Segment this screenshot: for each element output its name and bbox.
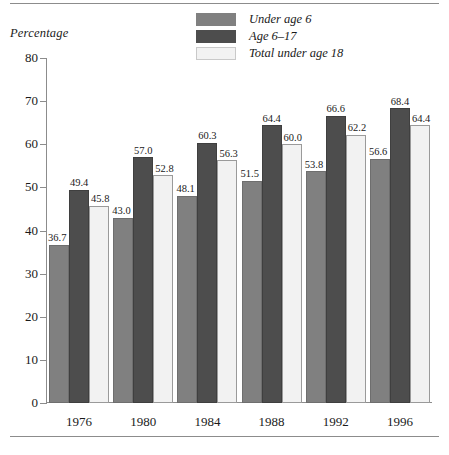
y-tick-label: 40 [25, 223, 38, 239]
bar[interactable]: 52.8 [153, 175, 173, 403]
bar-value-label: 49.4 [70, 178, 88, 189]
y-tick-label: 0 [32, 395, 39, 411]
bar[interactable]: 56.3 [217, 160, 237, 403]
bar-value-label: 52.8 [155, 164, 173, 175]
y-tick-label: 50 [25, 179, 38, 195]
bars: 53.866.662.2 [306, 58, 366, 403]
y-tick-label: 60 [25, 136, 38, 152]
bar[interactable]: 56.6 [370, 159, 390, 403]
figure-bottom-rule [10, 436, 439, 437]
y-tick-mark [40, 360, 47, 361]
x-tick-label: 1996 [387, 414, 413, 430]
bar-value-label: 43.0 [112, 206, 130, 217]
plot-area: 01020304050607080 36.749.445.8197643.057… [46, 58, 432, 403]
bar-value-label: 48.1 [176, 184, 194, 195]
x-tick-label: 1992 [323, 414, 349, 430]
bar-group-1976: 36.749.445.81976 [47, 58, 111, 403]
bar[interactable]: 60.0 [282, 144, 302, 403]
bar[interactable]: 57.0 [133, 157, 153, 403]
bar-value-label: 60.3 [198, 131, 216, 142]
y-tick-mark [40, 101, 47, 102]
bar-value-label: 57.0 [134, 146, 152, 157]
legend-label-under-age-6: Under age 6 [249, 13, 312, 26]
y-tick-label: 10 [25, 352, 38, 368]
y-tick-mark [40, 274, 47, 275]
bar-value-label: 62.2 [348, 123, 366, 134]
y-tick-mark [40, 144, 47, 145]
bar-value-label: 64.4 [262, 114, 280, 125]
bar-value-label: 68.4 [391, 97, 409, 108]
bars: 36.749.445.8 [49, 58, 109, 403]
bar[interactable]: 49.4 [69, 190, 89, 403]
bar[interactable]: 48.1 [177, 196, 197, 403]
bar-value-label: 36.7 [48, 233, 66, 244]
bar[interactable]: 43.0 [113, 218, 133, 403]
legend-item-age-6-17: Age 6–17 [196, 30, 343, 43]
bar[interactable]: 51.5 [242, 181, 262, 403]
bar-value-label: 66.6 [327, 104, 345, 115]
bar[interactable]: 62.2 [346, 135, 366, 403]
bar-group-1988: 51.564.460.01988 [240, 58, 304, 403]
bar-value-label: 51.5 [241, 169, 259, 180]
y-tick-label: 80 [25, 50, 38, 66]
y-tick-label: 30 [25, 266, 38, 282]
bars: 48.160.356.3 [177, 58, 237, 403]
bar[interactable]: 66.6 [326, 116, 346, 403]
bar[interactable]: 36.7 [49, 245, 69, 403]
chart-legend: Under age 6 Age 6–17 Total under age 18 [196, 13, 343, 60]
y-tick-label: 70 [25, 93, 38, 109]
y-axis-title: Percentage [10, 26, 68, 41]
figure-top-rule [10, 3, 439, 4]
bar-group-1996: 56.668.464.41996 [368, 58, 432, 403]
x-tick-label: 1984 [194, 414, 220, 430]
bar-group-1984: 48.160.356.31984 [175, 58, 239, 403]
bar-group-1992: 53.866.662.21992 [304, 58, 368, 403]
bar[interactable]: 64.4 [262, 125, 282, 403]
y-tick-mark [40, 231, 47, 232]
bar-value-label: 56.3 [219, 149, 237, 160]
bar[interactable]: 53.8 [306, 171, 326, 403]
bar-value-label: 53.8 [305, 160, 323, 171]
bar-value-label: 45.8 [91, 194, 109, 205]
y-tick-mark [40, 187, 47, 188]
y-tick-label: 20 [25, 309, 38, 325]
legend-item-under-age-6: Under age 6 [196, 13, 343, 26]
legend-swatch-age-6-17 [196, 30, 236, 43]
bar[interactable]: 68.4 [390, 108, 410, 403]
y-tick-mark [40, 403, 47, 404]
bar-groups: 36.749.445.8197643.057.052.8198048.160.3… [47, 58, 432, 403]
bar-value-label: 60.0 [284, 133, 302, 144]
bar-value-label: 64.4 [412, 114, 430, 125]
x-tick-label: 1988 [259, 414, 285, 430]
bar[interactable]: 45.8 [89, 206, 109, 404]
legend-swatch-under-age-6 [196, 13, 236, 26]
y-tick-mark [40, 317, 47, 318]
y-tick-mark [40, 58, 47, 59]
bars: 56.668.464.4 [370, 58, 430, 403]
x-tick-label: 1976 [66, 414, 92, 430]
bar-value-label: 56.6 [369, 147, 387, 158]
bar[interactable]: 60.3 [197, 143, 217, 403]
legend-label-age-6-17: Age 6–17 [249, 30, 297, 43]
bars: 43.057.052.8 [113, 58, 173, 403]
bar-group-1980: 43.057.052.81980 [111, 58, 175, 403]
x-tick-label: 1980 [130, 414, 156, 430]
bar[interactable]: 64.4 [410, 125, 430, 403]
bars: 51.564.460.0 [242, 58, 302, 403]
